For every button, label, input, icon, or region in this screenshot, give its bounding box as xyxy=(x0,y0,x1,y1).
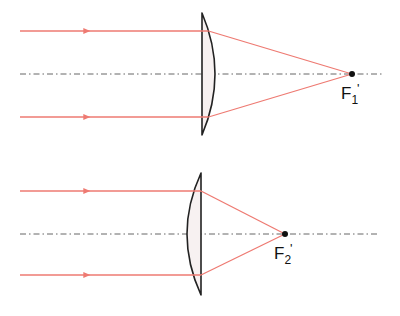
focus-label-f2: F2' xyxy=(274,242,293,266)
focal-point xyxy=(349,71,355,77)
optics-diagram xyxy=(0,0,400,316)
focus-prime: ' xyxy=(357,81,359,96)
focus-letter: F xyxy=(341,84,351,103)
refracted-ray xyxy=(201,234,285,275)
diagram-lens-1 xyxy=(20,13,382,135)
focus-prime: ' xyxy=(290,241,292,256)
diagram-lens-2 xyxy=(20,173,380,295)
refracted-ray xyxy=(201,191,285,234)
refracted-ray xyxy=(209,31,352,74)
focus-label-f1: F1' xyxy=(341,82,360,106)
focal-point xyxy=(282,231,288,237)
focus-letter: F xyxy=(274,244,284,263)
refracted-ray xyxy=(209,74,352,117)
